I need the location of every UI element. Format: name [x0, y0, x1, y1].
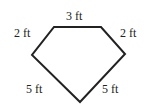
side-label-upper-right: 2 ft [120, 26, 137, 40]
side-label-top: 3 ft [66, 9, 83, 23]
pentagon-diagram: 3 ft 2 ft 5 ft 5 ft 2 ft [0, 0, 144, 110]
side-label-lower-right: 5 ft [102, 82, 119, 96]
side-label-lower-left: 5 ft [26, 82, 43, 96]
side-label-upper-left: 2 ft [14, 26, 31, 40]
